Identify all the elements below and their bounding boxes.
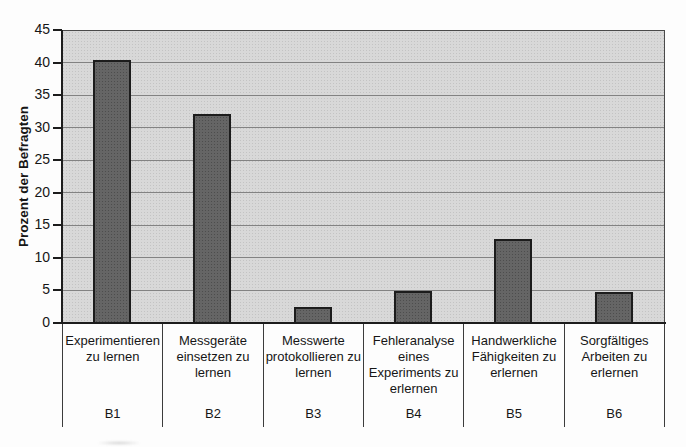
category-label-line: Experimentieren	[63, 333, 162, 349]
bar-B4	[394, 291, 432, 323]
category-code-B5: B5	[464, 406, 563, 422]
category-code-B6: B6	[565, 406, 664, 422]
bar-B3	[294, 307, 332, 323]
category-cell-B3: Messwerteprotokollieren zulernenB3	[264, 324, 364, 427]
category-label-line: erlernen	[565, 365, 664, 381]
category-label-line: Messwerte	[264, 333, 363, 349]
bar-slot-B1	[62, 31, 162, 323]
category-label-line: Fähigkeiten zu	[464, 349, 563, 365]
bar-B1	[93, 60, 131, 323]
y-tick-label-0: 0	[12, 314, 50, 331]
category-label-line: Fehleranalyse	[364, 333, 463, 349]
bar-slot-B4	[363, 31, 463, 323]
category-cell-B4: FehleranalyseeinesExperiments zuerlernen…	[364, 324, 464, 427]
category-code-B4: B4	[364, 406, 463, 422]
plot-area	[62, 30, 665, 323]
category-label-line: eines	[364, 349, 463, 365]
bar-chart-figure: Prozent der Befragten 051015202530354045…	[0, 0, 686, 447]
category-cell-B2: Messgeräteeinsetzen zulernenB2	[163, 324, 263, 427]
category-label-line: zu lernen	[63, 349, 162, 365]
category-label-line: Handwerkliche	[464, 333, 563, 349]
y-axis-title: Prozent der Befragten	[16, 67, 33, 287]
category-label-line: lernen	[264, 365, 363, 381]
bar-B5	[494, 239, 532, 323]
y-axis-line	[61, 30, 63, 324]
category-cell-B1: Experimentierenzu lernenB1	[62, 324, 163, 427]
category-label-line: erlernen	[464, 365, 563, 381]
category-labels-row: Experimentierenzu lernenB1Messgeräteeins…	[62, 324, 665, 427]
category-label-line: protokollieren zu	[264, 349, 363, 365]
category-label-line: erlernen	[364, 381, 463, 397]
bar-B2	[193, 114, 231, 323]
bars-row	[62, 31, 664, 323]
category-label-line: Experiments zu	[364, 365, 463, 381]
category-label-line: Sorgfältiges	[565, 333, 664, 349]
category-code-B1: B1	[63, 406, 162, 422]
bar-B6	[595, 292, 633, 323]
category-code-B3: B3	[264, 406, 363, 422]
category-label-line: lernen	[163, 365, 262, 381]
category-label-line: Messgeräte	[163, 333, 262, 349]
category-cell-B5: HandwerklicheFähigkeiten zuerlernenB5	[464, 324, 564, 427]
y-tick-label-45: 45	[12, 21, 50, 38]
bar-slot-B5	[463, 31, 563, 323]
category-label-line: einsetzen zu	[163, 349, 262, 365]
scan-smudge-artifact	[96, 441, 142, 445]
category-code-B2: B2	[163, 406, 262, 422]
bar-slot-B2	[162, 31, 262, 323]
bar-slot-B3	[263, 31, 363, 323]
category-label-line: Arbeiten zu	[565, 349, 664, 365]
bar-slot-B6	[564, 31, 664, 323]
category-cell-B6: SorgfältigesArbeiten zuerlernenB6	[565, 324, 665, 427]
